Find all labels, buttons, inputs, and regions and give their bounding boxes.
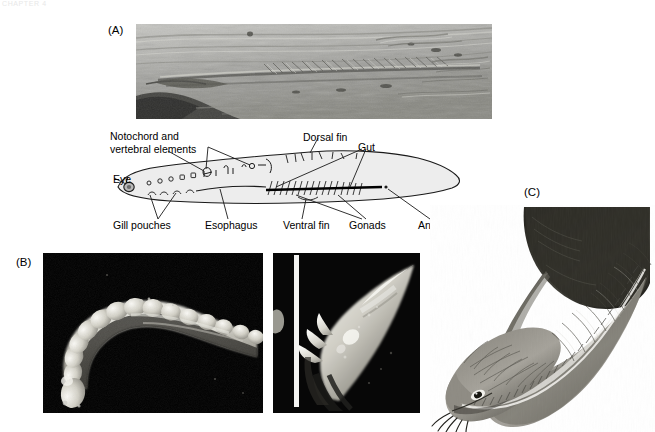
label-gut: Gut [358, 141, 375, 154]
panel-c-life-reconstruction [430, 205, 655, 432]
panel-label-c: (C) [524, 186, 540, 198]
label-gill-pouches: Gill pouches [113, 219, 171, 232]
label-gonads: Gonads [349, 219, 386, 232]
figure-root: CHAPTER 4 (A) [0, 0, 655, 432]
label-notochord-line1: Notochord and [110, 130, 179, 142]
panel-label-b: (B) [16, 256, 31, 268]
label-dorsal-fin: Dorsal fin [303, 131, 347, 144]
label-notochord-line2: vertebral elements [110, 143, 196, 155]
panel-b-right-sem-photograph [273, 253, 420, 413]
label-ventral-fin: Ventral fin [283, 219, 330, 232]
label-esophagus: Esophagus [205, 219, 258, 232]
ghost-running-header: CHAPTER 4 [2, 0, 47, 7]
panel-b-left-sem-photograph [43, 253, 263, 413]
label-eye: Eye [113, 173, 131, 186]
panel-a-fossil-photograph [136, 24, 492, 119]
panel-label-a: (A) [108, 24, 123, 36]
label-notochord-vertebral-elements: Notochord and vertebral elements [110, 130, 196, 155]
